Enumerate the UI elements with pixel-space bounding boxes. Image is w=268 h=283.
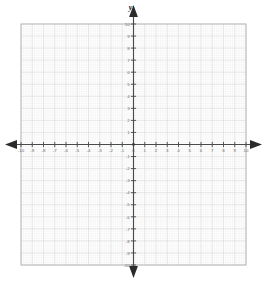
y-axis-label: y — [128, 3, 133, 12]
y-tick-label: -8 — [126, 239, 130, 244]
x-tick-label: -5 — [75, 148, 79, 153]
x-tick-label: -9 — [30, 148, 34, 153]
x-axis-right-arrow-icon — [250, 140, 262, 149]
y-axis-down-arrow-icon — [129, 266, 138, 278]
y-tick-label: -1 — [126, 154, 130, 159]
y-tick-label: -7 — [126, 227, 130, 232]
x-axis-left-arrow-icon — [5, 140, 17, 149]
coordinate-grid-figure: -10-9-8-7-6-5-4-3-2-1012345678910 -10-9-… — [0, 0, 268, 283]
x-tick-label: -8 — [42, 148, 46, 153]
y-tick-label: 10 — [125, 22, 130, 27]
coordinate-plane-svg: -10-9-8-7-6-5-4-3-2-1012345678910 -10-9-… — [0, 0, 268, 283]
y-tick-label: -6 — [126, 215, 130, 220]
x-tick-label: -2 — [109, 148, 113, 153]
origin-point — [132, 143, 135, 146]
x-tick-label: -4 — [87, 148, 91, 153]
y-tick-label: -9 — [126, 251, 130, 256]
x-tick-label: -1 — [120, 148, 124, 153]
y-tick-label: -5 — [126, 202, 130, 207]
x-tick-label: -10 — [18, 148, 25, 153]
x-tick-label: -7 — [53, 148, 57, 153]
x-tick-label: 10 — [244, 148, 249, 153]
x-tick-label: -6 — [64, 148, 68, 153]
y-tick-label: -10 — [123, 263, 130, 268]
x-tick-label: -3 — [98, 148, 102, 153]
y-tick-label: -2 — [126, 166, 130, 171]
y-tick-label: -3 — [126, 178, 130, 183]
y-tick-label: -4 — [126, 190, 130, 195]
